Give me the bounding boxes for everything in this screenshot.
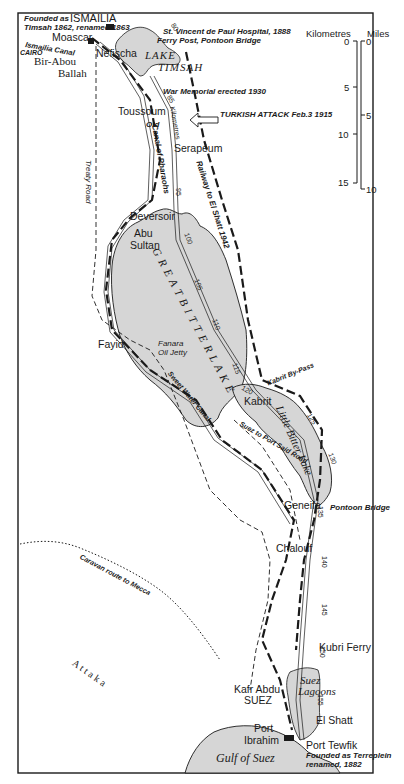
scale-mi-5: 5 (366, 111, 371, 121)
place-ismailia: ISMAILIA (70, 13, 116, 24)
place-port: Port (254, 723, 273, 734)
note-ferry-post: Ferry Post, Pontoon Bridge (157, 37, 261, 45)
place-toussoum: Toussoum (118, 106, 166, 117)
place-ballah: Ballah (58, 68, 87, 79)
place-el-shatt: El Shatt (316, 715, 353, 726)
map: Kilometres Miles 0 5 10 15 0 5 10 Founde… (0, 0, 404, 784)
place-geneifa: Geneifa (284, 500, 321, 511)
note-fanara-2: Oil Jetty (158, 349, 187, 357)
note-founded-tewfik-1: Founded as Terreplein (306, 752, 392, 760)
note-treaty-road: Treaty Road (84, 160, 92, 203)
scale-km-0: 0 (344, 37, 349, 47)
place-ibrahim: Ibrahim (244, 735, 279, 746)
km-marker-95: 95 (175, 188, 182, 196)
scale-mi-0: 0 (366, 37, 371, 47)
note-war-memorial: War Memorial erected 1930 (163, 88, 266, 96)
water-lake-timsah-2: TIMSAH (158, 62, 203, 73)
note-fanara-1: Fanara (158, 340, 183, 348)
scale-km-5: 5 (344, 83, 349, 93)
place-kafr-abdu: Kafr Abdu (234, 684, 280, 695)
place-moascar: Moascar (52, 32, 92, 43)
note-founded-tewfik-2: renamed, 1882 (306, 761, 362, 769)
note-st-vincent: St. Vincent de Paul Hospital, 1888 (163, 28, 291, 36)
note-pontoon-bridge: Pontoon Bridge (330, 504, 390, 512)
place-bir-abou: Bir-Abou (34, 56, 76, 67)
place-abu: Abu (134, 228, 153, 239)
place-kabrit: Kabrit (244, 396, 271, 407)
km-marker-150: 150 (319, 646, 326, 658)
note-turkish-attack: TURKISH ATTACK Feb.3 1915 (220, 111, 332, 119)
caravan-route (20, 541, 220, 660)
scale-km-10: 10 (338, 130, 349, 140)
port-tewfik-marker (284, 735, 294, 741)
place-nefischa: Nefischa (96, 48, 137, 59)
place-suez: SUEZ (244, 695, 272, 706)
water-lake-timsah-1: LAKE (145, 50, 176, 61)
place-port-tewfik: Port Tewfik (306, 740, 357, 751)
place-kubri-ferry: Kubri Ferry (319, 642, 371, 653)
km-marker-140: 140 (321, 556, 328, 568)
map-graphics (0, 0, 404, 784)
scale-km-15: 15 (338, 178, 349, 188)
place-chalouf: Chalouf (276, 543, 312, 554)
place-fayid: Fayid (98, 339, 124, 350)
km-marker-155: 155 (317, 694, 324, 706)
place-deversoir: Deversoir (130, 211, 175, 222)
scale-bar (353, 41, 365, 189)
km-marker-135: 135 (317, 506, 324, 518)
km-marker-145: 145 (321, 604, 328, 616)
water-gulf-of-suez: Gulf of Suez (216, 752, 275, 764)
scale-mi-10: 10 (366, 185, 377, 195)
turkish-attack-arrow (190, 113, 218, 127)
note-founded-ismailia-1: Founded as (24, 15, 69, 23)
place-serapeum: Serapéum (174, 143, 222, 154)
